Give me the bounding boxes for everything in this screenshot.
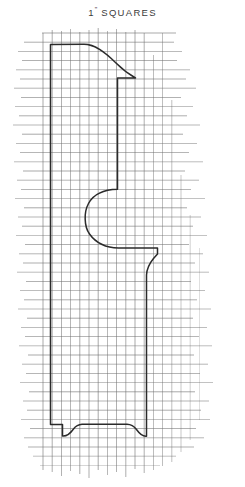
pattern-outline <box>51 44 158 436</box>
pattern-sheet: 1"SQUARES <box>0 0 245 487</box>
pattern-plate <box>0 0 245 487</box>
